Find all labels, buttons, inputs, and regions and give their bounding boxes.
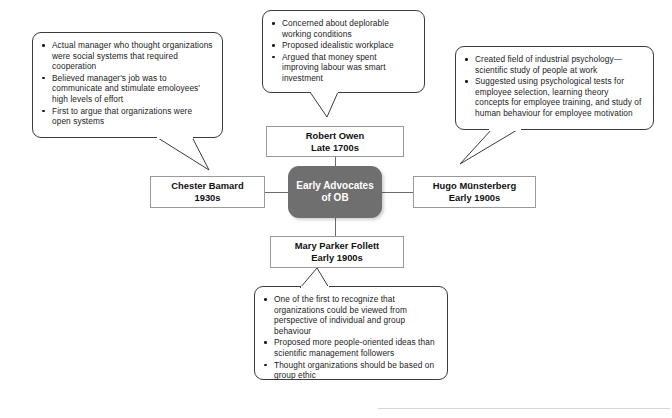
callout-robert-owen: Concerned about deplorable working condi… bbox=[262, 10, 425, 93]
tail-mask-right bbox=[489, 128, 521, 131]
diagram-canvas: Concerned about deplorable working condi… bbox=[0, 0, 672, 418]
list-item: Proposed more people-oriented ideas than… bbox=[263, 337, 438, 358]
callout-tail-chester-barnard bbox=[152, 134, 222, 172]
callout-chester-barnard: Actual manager who thought organizations… bbox=[32, 32, 223, 138]
node-mary-parker-follett[interactable]: Mary Parker Follett Early 1900s bbox=[270, 236, 404, 268]
node-label-name: Robert Owen bbox=[306, 130, 364, 142]
node-label-period: Early 1900s bbox=[311, 252, 363, 264]
spoke-right bbox=[381, 192, 413, 193]
list-item: Proposed idealistic workplace bbox=[271, 40, 415, 51]
callout-hugo-munsterberg: Created field of industrial psychology—s… bbox=[455, 46, 654, 130]
list-item: Argued that money spent improving labour… bbox=[271, 52, 415, 84]
tail-mask-top bbox=[311, 90, 338, 93]
list-item: Thought organizations should be based on… bbox=[263, 360, 438, 381]
node-robert-owen[interactable]: Robert Owen Late 1700s bbox=[266, 126, 404, 157]
center-node-line2: of OB bbox=[321, 192, 348, 205]
tail-mask-bottom bbox=[301, 286, 329, 289]
node-label-period: Late 1700s bbox=[311, 142, 359, 154]
list-item: Suggested using psychological tests for … bbox=[464, 76, 644, 118]
list-item: Concerned about deplorable working condi… bbox=[271, 18, 415, 39]
node-label-name: Hugo Münsterberg bbox=[433, 180, 516, 192]
node-chester-barnard[interactable]: Chester Bamard 1930s bbox=[150, 176, 265, 208]
bullet-list-hugo-munsterberg: Created field of industrial psychology—s… bbox=[464, 54, 644, 119]
bullet-list-chester-barnard: Actual manager who thought organizations… bbox=[41, 40, 213, 127]
node-hugo-munsterberg[interactable]: Hugo Münsterberg Early 1900s bbox=[413, 176, 536, 208]
bullet-list-mary-parker-follett: One of the first to recognize that organ… bbox=[263, 294, 438, 381]
spoke-left bbox=[265, 192, 289, 193]
list-item: First to argue that organizations were o… bbox=[41, 106, 213, 127]
callout-mary-parker-follett: One of the first to recognize that organ… bbox=[254, 286, 448, 380]
node-label-period: Early 1900s bbox=[449, 192, 501, 204]
tail-mask-left bbox=[157, 136, 193, 139]
node-label-period: 1930s bbox=[194, 192, 220, 204]
center-node-early-advocates[interactable]: Early Advocates of OB bbox=[288, 166, 382, 218]
spoke-bottom bbox=[335, 218, 336, 236]
page-bottom-rule bbox=[378, 408, 670, 409]
bullet-list-robert-owen: Concerned about deplorable working condi… bbox=[271, 18, 415, 84]
list-item: One of the first to recognize that organ… bbox=[263, 294, 438, 336]
list-item: Actual manager who thought organizations… bbox=[41, 40, 213, 72]
center-node-line1: Early Advocates bbox=[296, 180, 373, 193]
callout-tail-robert-owen bbox=[310, 92, 350, 118]
node-label-name: Chester Bamard bbox=[171, 180, 243, 192]
list-item: Believed manager's job was to communicat… bbox=[41, 73, 213, 105]
list-item: Created field of industrial psychology—s… bbox=[464, 54, 644, 75]
node-label-name: Mary Parker Follett bbox=[295, 240, 379, 252]
callout-tail-hugo-munsterberg bbox=[452, 126, 527, 168]
